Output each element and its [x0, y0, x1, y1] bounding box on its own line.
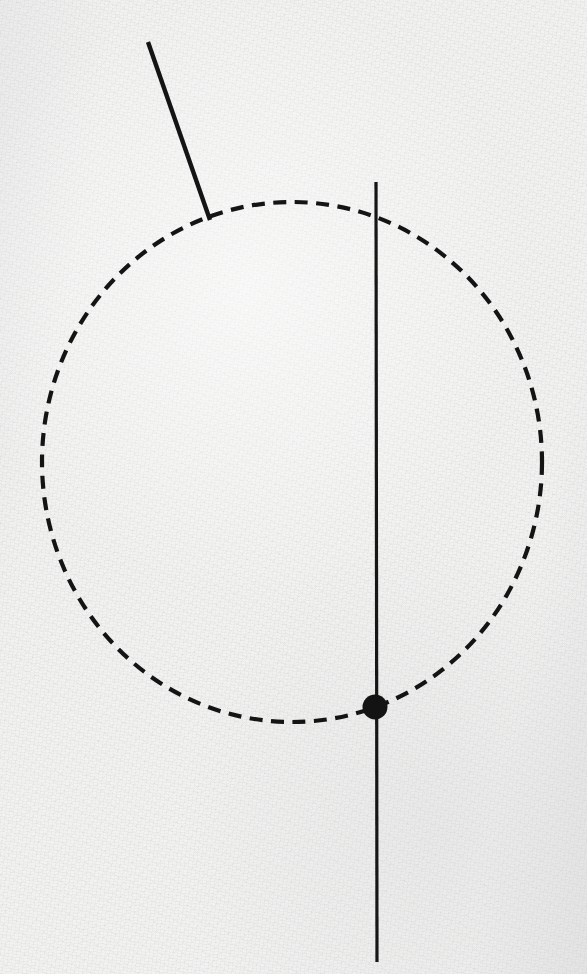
vertical-line-shape — [376, 182, 377, 962]
figure-canvas: Geometric construction: circle with vert… — [0, 0, 587, 974]
marked-point-dot — [363, 695, 388, 720]
geometric-diagram — [0, 0, 587, 974]
dashed-circle-shape — [42, 202, 542, 722]
slanted-line-shape — [148, 42, 210, 220]
